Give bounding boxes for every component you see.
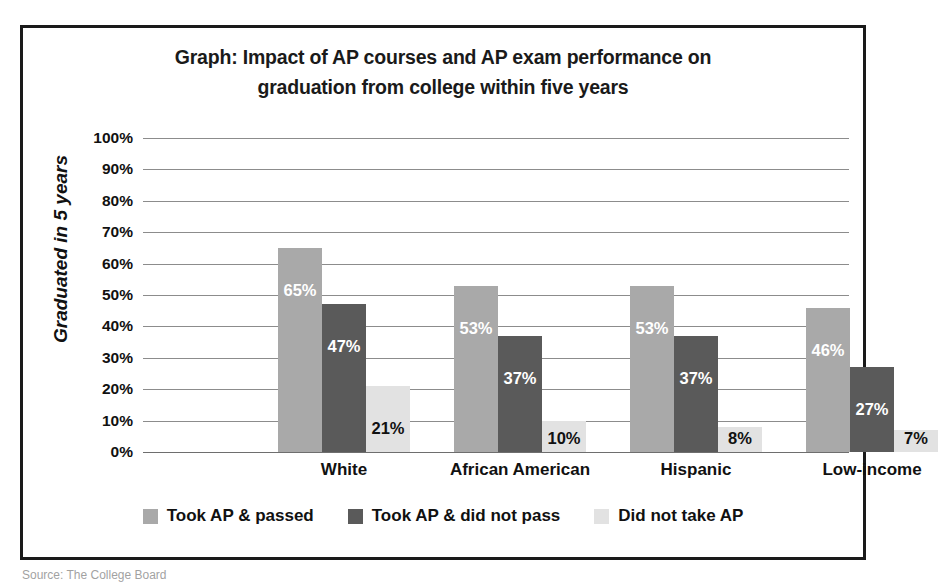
gridline: 0% [143,452,849,453]
y-axis-tick-label: 40% [102,317,133,335]
legend-label: Did not take AP [618,506,743,526]
bar[interactable]: 37% [498,336,542,452]
legend-label: Took AP & did not pass [372,506,561,526]
legend-item[interactable]: Did not take AP [594,506,743,526]
bar[interactable]: 47% [322,304,366,452]
y-axis-tick-label: 90% [102,160,133,178]
bar-value-label: 37% [498,369,542,388]
legend-swatch [594,509,609,524]
legend-label: Took AP & passed [167,506,314,526]
bar-value-label: 27% [850,400,894,419]
y-axis-tick-label: 60% [102,255,133,273]
bar-value-label: 53% [454,319,498,338]
bar-group: 53%37%10% [454,138,586,452]
bar-group: 46%27%7% [806,138,938,452]
bar[interactable]: 21% [366,386,410,452]
bars-layer: 65%47%21%53%37%10%53%37%8%46%27%7% [143,138,849,452]
plot-area: 100%90%80%70%60%50%40%30%20%10%0% 65%47%… [143,138,849,452]
y-axis-tick-label: 70% [102,223,133,241]
bar-value-label: 37% [674,369,718,388]
bar-group: 53%37%8% [630,138,762,452]
legend-swatch [348,509,363,524]
y-axis-tick-label: 80% [102,192,133,210]
bar[interactable]: 7% [894,430,938,452]
bar[interactable]: 8% [718,427,762,452]
legend-item[interactable]: Took AP & passed [143,506,314,526]
chart-title-line-2: graduation from college within five year… [23,72,863,102]
bar[interactable]: 10% [542,421,586,452]
y-axis-tick-label: 20% [102,380,133,398]
legend-swatch [143,509,158,524]
bar[interactable]: 46% [806,308,850,452]
y-axis-tick-label: 50% [102,286,133,304]
bar-value-label: 7% [894,429,938,448]
legend-item[interactable]: Took AP & did not pass [348,506,561,526]
bar[interactable]: 37% [674,336,718,452]
bar-value-label: 65% [278,281,322,300]
y-axis-title: Graduated in 5 years [50,149,72,349]
chart-title-line-1: Graph: Impact of AP courses and AP exam … [23,42,863,72]
y-axis-tick-label: 100% [93,129,133,147]
y-axis-tick-label: 30% [102,349,133,367]
x-axis-labels: WhiteAfrican AmericanHispanicLow-income [143,460,849,490]
bar-value-label: 8% [718,429,762,448]
bar-value-label: 47% [322,337,366,356]
bar[interactable]: 53% [630,286,674,452]
x-axis-category-label: Hispanic [661,460,732,480]
bar[interactable]: 27% [850,367,894,452]
x-axis-category-label: White [321,460,367,480]
y-axis-tick-label: 10% [102,412,133,430]
bar-value-label: 10% [542,429,586,448]
bar[interactable]: 65% [278,248,322,452]
bar-value-label: 46% [806,341,850,360]
x-axis-category-label: African American [450,460,590,480]
bar-group: 65%47%21% [278,138,410,452]
chart-frame: Graph: Impact of AP courses and AP exam … [20,25,866,560]
source-caption: Source: The College Board [22,568,167,582]
bar-value-label: 21% [366,419,410,438]
bar-value-label: 53% [630,319,674,338]
chart-legend: Took AP & passedTook AP & did not passDi… [23,506,863,526]
y-axis-tick-label: 0% [111,443,133,461]
x-axis-category-label: Low-income [822,460,921,480]
chart-title: Graph: Impact of AP courses and AP exam … [23,42,863,102]
bar[interactable]: 53% [454,286,498,452]
